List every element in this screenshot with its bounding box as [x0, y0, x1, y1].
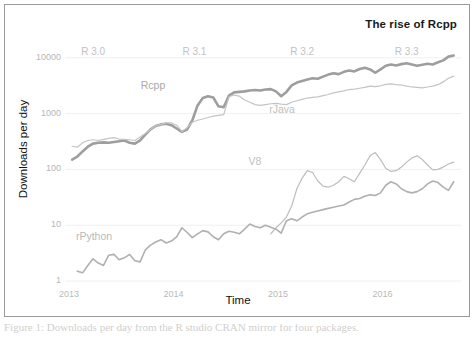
series-label-rcpp: Rcpp	[141, 79, 166, 91]
x-axis-label: Time	[5, 294, 471, 306]
series-line-rcpp	[72, 55, 454, 159]
series-line-rjava	[72, 76, 454, 147]
figure-caption-strip: Figure 1: Downloads per day from the R s…	[4, 324, 470, 338]
series-label-v8: V8	[248, 155, 261, 167]
annotation-r-3-1: R 3.1	[183, 46, 207, 57]
chart-title: The rise of Rcpp	[365, 18, 457, 30]
series-label-rpython: rPython	[76, 230, 112, 242]
y-axis-tick-1: 1	[21, 275, 61, 285]
series-line-v8	[271, 153, 454, 234]
annotation-r-3-3: R 3.3	[395, 46, 419, 57]
annotation-r-3-0: R 3.0	[81, 46, 105, 57]
annotation-r-3-2: R 3.2	[290, 46, 314, 57]
series-line-rpython	[77, 181, 453, 273]
chart-plot-area: 1000010001001012013201420152016R 3.0R 3.…	[5, 5, 471, 318]
y-axis-label: Downloads per day	[17, 59, 29, 239]
figure-frame: 1000010001001012013201420152016R 3.0R 3.…	[4, 4, 470, 317]
series-label-rjava: rJava	[269, 103, 295, 115]
figure-caption: Figure 1: Downloads per day from the R s…	[4, 324, 359, 333]
